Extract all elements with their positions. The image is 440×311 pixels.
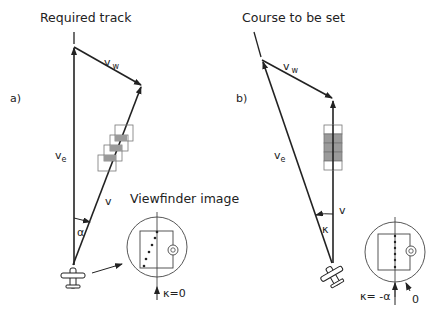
- aircraft-icon: [61, 268, 85, 288]
- kappa-zero-label: κ=0: [163, 287, 186, 300]
- kappa-neg-alpha-label: κ= -α: [360, 290, 390, 303]
- alpha-label: α: [77, 226, 84, 239]
- panel-b: Course to be set b) ve vw v κ: [236, 10, 425, 306]
- panel-a-label: a): [10, 92, 21, 105]
- kappa-angle-label: κ: [322, 223, 329, 236]
- drift-squares-b: [324, 125, 342, 170]
- viewfinder-title: Viewfinder image: [130, 191, 239, 206]
- panel-b-title: Course to be set: [242, 10, 345, 25]
- v-label-b: v: [339, 204, 346, 217]
- v-label: v: [105, 195, 112, 208]
- ve-label-b: ve: [274, 149, 286, 164]
- panel-b-label: b): [236, 92, 247, 105]
- ve-label: ve: [55, 149, 67, 164]
- panel-a: Required track a) ve vw v α: [10, 10, 239, 300]
- pointer-arrow: [92, 264, 122, 273]
- zero-label: 0: [412, 293, 419, 306]
- drift-squares-a: [98, 125, 133, 171]
- diagram-canvas: Required track a) ve vw v α: [0, 0, 440, 311]
- track-extension-line-b: [254, 32, 261, 57]
- aircraft-icon-b: [318, 261, 349, 290]
- panel-a-title: Required track: [40, 10, 132, 25]
- kappa-arc: [316, 214, 333, 215]
- vw-label: vw: [104, 56, 120, 71]
- alpha-arc: [74, 218, 90, 222]
- vw-label-b: vw: [283, 60, 299, 75]
